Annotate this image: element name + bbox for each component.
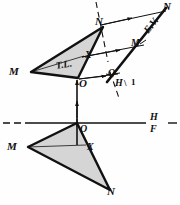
label-front-view-X: X — [87, 142, 94, 152]
label-front-view-M: M — [7, 141, 17, 152]
label-top-view-O: O — [79, 78, 87, 89]
label-top-view-N: N — [95, 16, 103, 27]
label-aux-view-N: N — [163, 1, 171, 12]
label-aux-view-M: M — [131, 38, 140, 48]
label-fold-h1-one: 1 — [131, 78, 136, 87]
label-front-view-O: O — [80, 124, 87, 134]
label-fold-hf-F: F — [150, 124, 157, 134]
label-fold-hf-H: H — [150, 112, 158, 122]
label-top-view-M: M — [9, 66, 19, 77]
aux-projector-from-N-arrow — [101, 18, 132, 25]
label-top-view-X: X — [85, 50, 92, 60]
front-view-triangle-fill — [28, 123, 110, 190]
descriptive-geometry-figure: M N O X T.L. M N O X N M O E.V. H \ 1 H … — [0, 0, 180, 205]
label-fold-h1-H: H — [115, 78, 123, 88]
label-front-view-N: N — [107, 186, 115, 197]
label-fold-h1-separator: \ — [124, 79, 127, 88]
